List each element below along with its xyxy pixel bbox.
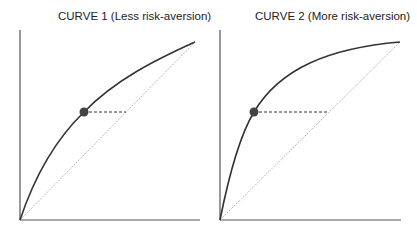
- chart-1-marker: [80, 108, 89, 117]
- chart-2: [220, 30, 401, 220]
- chart-1: [20, 30, 200, 220]
- chart-1-diagonal: [20, 42, 195, 220]
- diagrams-canvas: [0, 0, 417, 227]
- chart-2-diagonal: [220, 42, 400, 220]
- chart-2-marker: [250, 108, 259, 117]
